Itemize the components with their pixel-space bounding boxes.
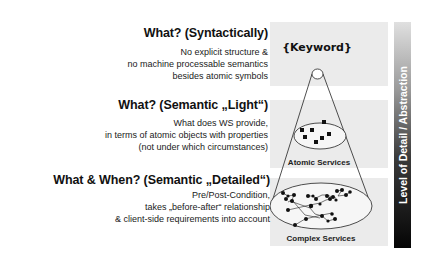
atomic-services-label: Atomic Services [288,158,351,167]
keyword-label: {Keyword} [282,41,352,54]
level-desc-line: (not under which circumstances) [105,141,268,153]
level-desc-line: & client-side requirements into account [53,213,270,225]
complex-services-label: Complex Services [287,234,356,243]
level-desc-line: takes „before-after“ relationship [53,201,270,213]
level-semantic-detailed: What & When? (Semantic „Detailed“) Pre/P… [53,173,270,225]
keyword-ellipse [312,69,323,79]
level-of-detail-axis: Level of Detail / Abstraction [394,22,411,248]
level-heading: What? (Syntactically) [127,26,268,40]
level-heading: What & When? (Semantic „Detailed“) [53,173,270,187]
level-desc-line: Pre/Post-Condition, [53,189,270,201]
level-desc-line: besides atomic symbols [127,70,268,82]
level-desc-line: in terms of atomic objects with properti… [105,129,268,141]
complex-services-ellipse [270,183,372,229]
level-desc-line: What does WS provide, [105,117,268,129]
level-semantic-light: What? (Semantic „Light“) What does WS pr… [105,98,268,153]
level-heading: What? (Semantic „Light“) [105,98,268,112]
level-desc-line: no machine processable semantics [127,58,268,70]
level-desc-line: No explicit structure & [127,46,268,58]
abstraction-cone-diagram: {Keyword} Atomic Services Complex Servic… [270,15,395,255]
level-syntactic: What? (Syntactically) No explicit struct… [127,26,268,82]
axis-label: Level of Detail / Abstraction [397,66,409,204]
